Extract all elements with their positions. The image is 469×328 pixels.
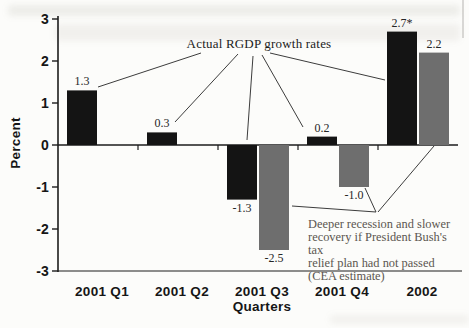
bar-actual-2001-q4 [307,137,337,145]
bar-actual-2002 [387,32,417,145]
annotation-cea-line: relief plan had not passed [308,257,458,270]
bar-cea-2001-q4 [339,145,369,187]
callout-line-actual-4 [262,55,303,127]
annotation-cea-estimate: Deeper recession and slowerrecovery if P… [308,218,458,283]
callout-line-actual-1 [98,53,201,87]
bar-cea-2001-q3 [259,145,289,250]
bar-actual-2001-q1 [67,90,97,145]
y-axis-title: Percent [8,113,24,173]
figure: 3210-1-2-31.32001 Q10.32001 Q2-1.3-2.520… [0,0,469,328]
bar-actual-2001-q2 [147,132,177,145]
y-tick-label: 1 [41,95,49,111]
value-label-actual-2001-q3: -1.3 [233,201,252,215]
callout-line-actual-2 [175,54,238,122]
value-label-actual-2001-q4: 0.2 [315,121,330,135]
x-category-label-2001-q2: 2001 Q2 [155,284,209,299]
value-label-cea-2001-q3: -2.5 [265,251,284,265]
annotation-cea-line: Deeper recession and slower [308,218,458,231]
bar-actual-2001-q3 [227,145,257,200]
annotation-cea-line: recovery if President Bush's tax [308,231,458,257]
value-label-cea-2001-q4: -1.0 [345,188,364,202]
callout-line-actual-3 [247,56,253,140]
y-tick-label: -1 [36,179,49,195]
callout-line-cea-1 [292,206,376,212]
callout-line-cea-3 [378,146,434,212]
value-label-actual-2001-q1: 1.3 [75,74,90,88]
value-label-actual-2001-q2: 0.3 [155,116,170,130]
x-category-label-2001-q3: 2001 Q3 [235,284,289,299]
x-axis-title: Quarters [212,299,312,314]
value-label-cea-2002: 2.2 [427,37,442,51]
x-category-label-2001-q4: 2001 Q4 [315,284,369,299]
annotation-actual-rgdp: Actual RGDP growth rates [154,36,364,52]
annotation-cea-line: (CEA estimate) [308,270,458,283]
y-tick-label: 0 [41,137,49,153]
callout-line-actual-5 [270,53,385,80]
x-category-label-2002: 2002 [406,284,437,299]
value-label-actual-2002: 2.7* [392,16,413,30]
y-tick-label: -3 [36,263,49,279]
callout-line-cea-2 [365,188,376,212]
y-tick-label: -2 [36,221,49,237]
y-tick-label: 3 [41,11,49,27]
y-tick-label: 2 [41,53,49,69]
bar-cea-2002 [419,53,449,145]
x-category-label-2001-q1: 2001 Q1 [75,284,129,299]
